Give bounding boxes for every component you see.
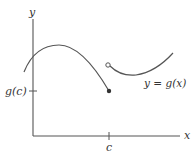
curve-left-branch	[24, 45, 109, 91]
x-tick-label-c: c	[106, 141, 112, 154]
x-axis-label: x	[184, 129, 191, 142]
open-point-icon	[106, 63, 110, 67]
function-graph: y x c g(c) y = g(x)	[0, 0, 195, 156]
closed-point-icon	[107, 89, 111, 93]
curve-label: y = g(x)	[143, 77, 186, 89]
y-tick-label-gc: g(c)	[5, 85, 27, 98]
curve-right-branch	[110, 53, 173, 75]
y-axis-label: y	[28, 6, 36, 19]
